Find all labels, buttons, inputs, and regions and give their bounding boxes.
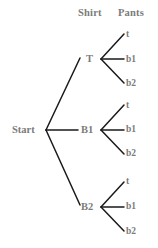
column-header-shirt: Shirt — [78, 8, 102, 19]
node-shirt-b1: B1 — [81, 125, 93, 136]
node-pants-b2-3: b2 — [126, 227, 136, 237]
node-shirt-t: T — [86, 54, 93, 65]
node-pants-b1-3: b1 — [126, 202, 136, 212]
node-pants-b1-2: b1 — [126, 125, 136, 135]
node-pants-t-1: t — [126, 30, 129, 40]
node-pants-b2-2: b2 — [126, 149, 136, 159]
node-pants-b1-1: b1 — [126, 55, 136, 65]
node-pants-t-2: t — [126, 101, 129, 111]
node-start: Start — [12, 125, 35, 136]
node-pants-t-3: t — [126, 177, 129, 187]
column-header-pants: Pants — [118, 8, 144, 19]
node-shirt-b2: B2 — [81, 202, 93, 213]
tree-diagram: Shirt Pants Start T B1 B2 t b1 b2 t b1 b… — [0, 0, 158, 248]
node-pants-b2-1: b2 — [126, 79, 136, 89]
